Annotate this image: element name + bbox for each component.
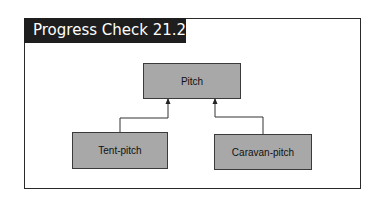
node-label: Pitch: [181, 76, 203, 87]
node-pitch: Pitch: [143, 63, 241, 99]
node-caravan-pitch: Caravan-pitch: [214, 134, 312, 170]
node-label: Caravan-pitch: [232, 147, 294, 158]
node-tent-pitch: Tent-pitch: [72, 132, 168, 169]
edge-tent-to-pitch: [120, 99, 168, 132]
node-label: Tent-pitch: [98, 145, 141, 156]
inheritance-connectors: [0, 0, 384, 200]
edge-caravan-to-pitch: [215, 99, 263, 134]
